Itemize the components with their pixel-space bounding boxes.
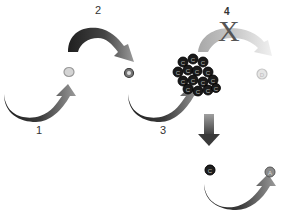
blocked-x-icon: X xyxy=(218,16,240,46)
diagram-svg: D C A xyxy=(0,0,284,212)
node-b xyxy=(125,69,134,78)
svg-text:C: C xyxy=(191,78,196,84)
svg-text:C: C xyxy=(191,57,196,63)
svg-text:A: A xyxy=(268,170,272,176)
svg-text:C: C xyxy=(206,88,211,94)
c-molecule-cluster: C C C C C C C C C C C C C C C xyxy=(173,54,221,96)
arrow-step-1 xyxy=(4,84,76,122)
node-a xyxy=(64,68,74,77)
node-a-final: A xyxy=(265,167,275,177)
svg-text:C: C xyxy=(181,79,186,85)
arrow-step-2 xyxy=(68,28,134,62)
arrow-down xyxy=(198,114,220,146)
svg-text:C: C xyxy=(206,70,211,76)
svg-text:C: C xyxy=(211,78,216,84)
step-label-1: 1 xyxy=(36,124,42,136)
svg-text:C: C xyxy=(195,69,200,75)
svg-text:C: C xyxy=(196,89,201,95)
arrow-final xyxy=(204,174,276,210)
svg-text:C: C xyxy=(201,80,206,86)
step-label-2: 2 xyxy=(95,4,101,16)
node-c: C xyxy=(205,165,215,175)
svg-text:C: C xyxy=(214,86,219,92)
svg-text:C: C xyxy=(201,60,206,66)
svg-text:D: D xyxy=(260,72,265,78)
svg-text:C: C xyxy=(181,60,186,66)
node-d: D xyxy=(257,69,267,79)
svg-text:C: C xyxy=(208,168,213,174)
pathway-diagram: D C A xyxy=(0,0,284,212)
svg-text:C: C xyxy=(186,68,191,74)
step-label-3: 3 xyxy=(160,124,166,136)
svg-text:C: C xyxy=(186,87,191,93)
svg-text:C: C xyxy=(176,70,181,76)
